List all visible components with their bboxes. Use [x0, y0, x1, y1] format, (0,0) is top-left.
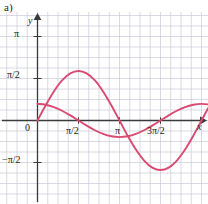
- origin-label: 0: [25, 123, 30, 133]
- graph-canvas: [0, 0, 208, 204]
- y-tick-label-pi: π: [14, 29, 19, 39]
- x-tick-label-pi-half: π/2: [66, 126, 79, 136]
- y-axis-label: y: [28, 16, 32, 26]
- x-axis-label: x: [197, 122, 201, 132]
- figure-panel: a) y x π π/2 0 −π/2 π/2 π 3π/2: [0, 0, 208, 204]
- panel-label: a): [4, 2, 13, 13]
- y-tick-label-negative-pi-half: −π/2: [2, 155, 20, 165]
- x-tick-label-3pi-half: 3π/2: [147, 126, 165, 136]
- plot-background: [0, 0, 208, 204]
- y-tick-label-pi-half: π/2: [7, 70, 20, 80]
- x-tick-label-pi: π: [115, 126, 120, 136]
